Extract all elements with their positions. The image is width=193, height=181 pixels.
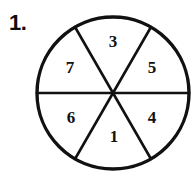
sector-label-lower-right: 4 xyxy=(148,108,157,127)
sector-label-lower-left: 6 xyxy=(67,108,76,127)
pie-wheel-diagram: 3 5 4 1 6 7 xyxy=(0,0,193,181)
sector-label-upper-right: 5 xyxy=(148,58,157,77)
sector-label-upper-left: 7 xyxy=(66,58,75,77)
sector-label-top: 3 xyxy=(109,32,118,51)
sector-label-bottom: 1 xyxy=(110,127,119,146)
figure-container: 1. 3 5 4 1 6 7 xyxy=(0,0,193,181)
